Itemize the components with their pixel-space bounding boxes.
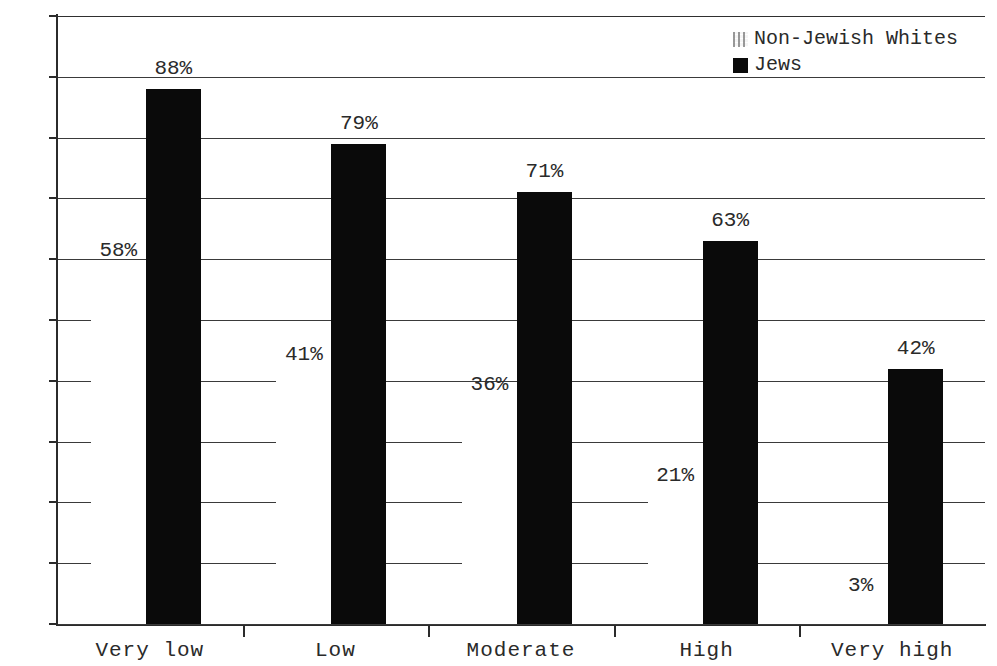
bar-value-label: 36% — [471, 373, 509, 396]
x-axis-label-very-high: Very high — [831, 639, 953, 662]
legend-entry-non-jewish-whites: Non-Jewish Whites — [733, 26, 958, 52]
y-tick-mark — [49, 15, 58, 17]
y-tick-mark — [49, 623, 58, 625]
x-axis-tick — [243, 626, 245, 637]
x-axis-label-very-low: Very low — [95, 639, 204, 662]
plot-area: 58%88%41%79%36%71%21%63%3%42% — [57, 16, 985, 624]
y-tick-mark — [49, 380, 58, 382]
y-tick-mark — [49, 562, 58, 564]
x-axis-tick — [614, 626, 616, 637]
bar-jews-very-low — [146, 89, 201, 624]
bar-non-jewish-whites-low — [276, 375, 331, 624]
bar-value-label: 71% — [526, 160, 564, 183]
legend-label-jews: Jews — [754, 52, 802, 78]
bar-non-jewish-whites-high — [648, 496, 703, 624]
bar-non-jewish-whites-moderate — [462, 405, 517, 624]
bar-value-label: 41% — [285, 343, 323, 366]
y-tick-mark — [49, 137, 58, 139]
bar-value-label: 63% — [711, 209, 749, 232]
legend-swatch-pattern-icon — [733, 32, 748, 47]
bar-jews-moderate — [517, 192, 572, 624]
legend-label-non-jewish-whites: Non-Jewish Whites — [754, 26, 958, 52]
bar-non-jewish-whites-very-low — [91, 271, 146, 624]
bar-value-label: 88% — [154, 57, 192, 80]
chart-legend: Non-Jewish Whites Jews — [733, 26, 958, 78]
x-axis-label-moderate: Moderate — [467, 639, 576, 662]
bar-chart: 58%88%41%79%36%71%21%63%3%42% 0102030405… — [0, 0, 997, 666]
gridline — [57, 624, 985, 625]
bar-value-label: 42% — [897, 337, 935, 360]
x-axis-label-high: High — [679, 639, 733, 662]
y-tick-mark — [49, 319, 58, 321]
bar-value-label: 3% — [848, 574, 873, 597]
bar-value-label: 21% — [656, 464, 694, 487]
x-axis-tick — [428, 626, 430, 637]
x-axis-tick — [799, 626, 801, 637]
gridline — [57, 16, 985, 17]
y-tick-mark — [49, 441, 58, 443]
bar-value-label: 79% — [340, 112, 378, 135]
y-tick-mark — [49, 76, 58, 78]
bar-jews-high — [703, 241, 758, 624]
y-tick-mark — [49, 197, 58, 199]
bar-jews-low — [331, 144, 386, 624]
y-tick-mark — [49, 258, 58, 260]
x-axis-label-low: Low — [315, 639, 356, 662]
legend-entry-jews: Jews — [733, 52, 958, 78]
bar-jews-very-high — [888, 369, 943, 624]
y-tick-mark — [49, 501, 58, 503]
bar-non-jewish-whites-very-high — [833, 606, 888, 624]
legend-swatch-solid-icon — [733, 58, 748, 73]
bar-value-label: 58% — [99, 239, 137, 262]
